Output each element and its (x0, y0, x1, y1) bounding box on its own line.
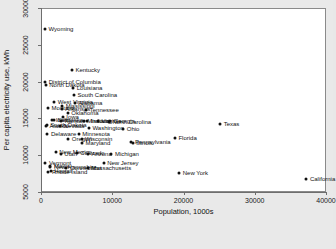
scatter-point-label: South Carolina (77, 92, 117, 98)
scatter-point-label: Ohio (127, 126, 140, 132)
scatter-point (97, 120, 100, 123)
scatter-point (131, 142, 134, 145)
y-axis-line (41, 8, 42, 192)
y-tick-label: 30000 (22, 0, 29, 18)
scatter-point (47, 107, 50, 110)
y-axis-label: Per capita electricity use, kWh (2, 8, 11, 192)
y-tick-label: 15000 (22, 109, 29, 128)
scatter-point-label: Illinois (136, 140, 153, 146)
scatter-point (122, 127, 125, 130)
scatter-point-label: Florida (178, 135, 196, 141)
scatter-point (72, 93, 75, 96)
scatter-point-label: California (310, 176, 335, 182)
scatter-point-label: Nevada (64, 123, 85, 129)
scatter-point-label: Massachusetts (91, 165, 131, 171)
scatter-point (87, 126, 90, 129)
y-tick-label: 10000 (22, 145, 29, 164)
scatter-point (219, 122, 222, 125)
y-tick (38, 118, 41, 119)
scatter-point (81, 141, 84, 144)
scatter-point (59, 153, 62, 156)
y-tick-label: 5000 (22, 184, 29, 200)
scatter-point-label: Texas (224, 121, 240, 127)
scatter-point (102, 161, 105, 164)
scatter-point (77, 132, 80, 135)
y-tick (38, 82, 41, 83)
scatter-point-label: Arizona (91, 151, 111, 157)
y-tick (38, 8, 41, 9)
x-tick (112, 192, 113, 195)
scatter-point (59, 124, 62, 127)
x-axis-label: Population, 1000s (41, 207, 326, 216)
scatter-point (60, 107, 63, 110)
scatter-point (173, 136, 176, 139)
scatter-point (107, 121, 110, 124)
x-tick (255, 192, 256, 195)
x-tick (326, 192, 327, 195)
x-tick-label: 10000 (103, 197, 122, 204)
y-tick (38, 155, 41, 156)
scatter-point-label: New York (183, 170, 208, 176)
scatter-point (80, 138, 83, 141)
scatter-point (86, 153, 89, 156)
scatter-point (49, 165, 52, 168)
scatter-point (72, 87, 75, 90)
scatter-point (305, 178, 308, 181)
scatter-point (53, 118, 56, 121)
scatter-point (44, 161, 47, 164)
y-tick (38, 192, 41, 193)
scatter-point (47, 171, 50, 174)
scatter-point (70, 68, 73, 71)
y-tick-label: 20000 (22, 72, 29, 91)
scatter-point (178, 171, 181, 174)
x-tick-label: 30000 (245, 197, 264, 204)
x-tick (41, 192, 42, 195)
scatter-point (44, 84, 47, 87)
scatter-point-label: Rhode Island (52, 169, 87, 175)
y-tick (38, 45, 41, 46)
y-tick-label: 25000 (22, 35, 29, 54)
scatter-point-label: Maryland (86, 140, 111, 146)
scatter-point (110, 152, 113, 155)
scatter-point (45, 124, 48, 127)
x-tick-label: 40000 (316, 197, 335, 204)
scatter-point (46, 132, 49, 135)
x-tick-label: 0 (39, 197, 43, 204)
scatter-point-label: Utah (64, 151, 77, 157)
x-tick-label: 20000 (174, 197, 193, 204)
scatter-point-label: Kentucky (75, 67, 100, 73)
scatter-point-label: Louisiana (77, 85, 103, 91)
scatter-point (54, 151, 57, 154)
x-tick (184, 192, 185, 195)
scatter-point (53, 101, 56, 104)
scatter-point-label: Michigan (115, 151, 139, 157)
scatter-point (67, 138, 70, 141)
scatter-point (43, 27, 46, 30)
scatter-point-label: Wyoming (48, 26, 73, 32)
